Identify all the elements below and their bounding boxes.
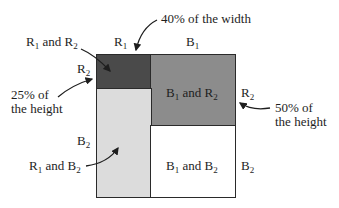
arrow-right-height-icon — [240, 103, 270, 109]
arrow-width-icon — [136, 20, 157, 50]
arrow-r1r2-icon — [81, 49, 110, 71]
arrow-left-height-icon — [58, 79, 92, 97]
annotation-arrows — [0, 0, 339, 208]
arrow-r1b2-icon — [86, 148, 118, 166]
